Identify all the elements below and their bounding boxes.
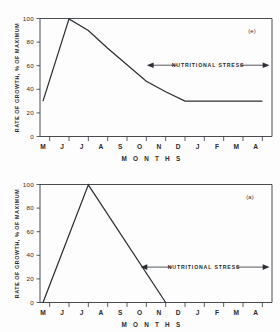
annotation-arrowhead-right-bottom [263,264,270,270]
chart-panel-bottom: 100 80 60 40 20 0 [0,166,280,332]
data-line-bottom [43,185,166,303]
xtick-label-bottom-9: F [215,309,219,316]
annotation-arrowhead-right-top [263,62,270,68]
xtick-label-bottom-3: A [99,309,104,316]
xtick-label-top-4: S [118,143,123,150]
yaxis-title-top: RATE OF GROWTH, % OF MAXIMUM [14,23,20,132]
xtick-label-top-8: J [196,143,200,150]
xtick-label-top-7: D [176,143,181,150]
chart-panel-top: 100 80 60 40 20 0 [0,0,280,166]
xtick-label-top-0: M [40,143,46,150]
xtick-label-bottom-8: J [196,309,200,316]
panel-tag-top: (e) [248,28,255,34]
ytick-label-top-60: 60 [27,62,35,69]
ytick-label-bottom-80: 80 [27,204,35,211]
xtick-label-bottom-5: O [137,309,142,316]
xtick-label-bottom-1: J [60,309,64,316]
xtick-label-top-2: J [80,143,84,150]
plot-frame-top [40,19,272,137]
xaxis-title-top: M O N T H S [122,155,183,162]
ytick-label-bottom-20: 20 [27,275,35,282]
xtick-label-bottom-6: N [157,309,162,316]
ytick-label-bottom-100: 100 [23,181,34,188]
xtick-label-top-1: J [60,143,64,150]
chart-svg-bottom: 100 80 60 40 20 0 [0,166,280,332]
xtick-label-top-3: A [99,143,104,150]
xtick-label-top-6: N [157,143,162,150]
xtick-label-top-10: M [233,143,239,150]
xtick-label-bottom-11: A [253,309,258,316]
xtick-label-bottom-0: M [40,309,46,316]
ytick-label-top-40: 40 [27,85,35,92]
ytick-label-top-100: 100 [23,15,34,22]
xaxis-title-bottom: M O N T H S [122,321,183,328]
ytick-label-top-80: 80 [27,38,35,45]
ytick-label-bottom-0: 0 [30,299,34,306]
yaxis-title-bottom: RATE OF GROWTH, % OF MAXIMUM [14,189,20,298]
ytick-label-bottom-60: 60 [27,228,35,235]
ytick-label-bottom-40: 40 [27,251,35,258]
xtick-label-bottom-7: D [176,309,181,316]
annotation-arrowhead-left-top [147,62,154,68]
xtick-label-bottom-10: M [233,309,239,316]
xtick-label-bottom-2: J [80,309,84,316]
data-line-top [43,19,262,101]
ytick-label-top-0: 0 [30,133,34,140]
panel-tag-bottom: (a) [246,194,253,200]
annotation-label-bottom: NUTRITIONAL STRESS [168,264,241,270]
xtick-label-top-9: F [215,143,219,150]
xtick-label-bottom-4: S [118,309,123,316]
ytick-label-top-20: 20 [27,109,35,116]
plot-frame-bottom [40,185,272,303]
chart-svg-top: 100 80 60 40 20 0 [0,0,280,166]
xtick-label-top-5: O [137,143,142,150]
figure-container: 100 80 60 40 20 0 [0,0,280,332]
annotation-label-top: NUTRITIONAL STRESS [172,62,245,68]
xtick-label-top-11: A [253,143,258,150]
